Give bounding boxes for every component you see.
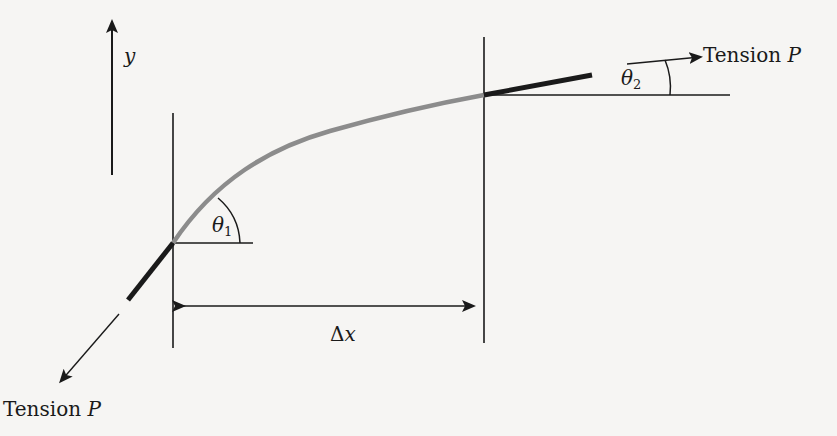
right-tangent-segment	[484, 75, 592, 95]
tension-bottom-arrow	[61, 314, 119, 381]
theta-symbol: θ	[621, 66, 633, 90]
theta1-label: θ1	[212, 213, 232, 239]
tension-symbol: P	[787, 43, 800, 67]
theta2-arc	[665, 60, 670, 95]
tension-bottom-label: Tension P	[3, 397, 101, 421]
left-tangent-segment	[128, 243, 173, 300]
theta-subscript: 2	[633, 77, 641, 92]
theta2-label: θ2	[621, 66, 641, 92]
theta-subscript: 1	[224, 224, 232, 239]
delta-x-label: Δx	[330, 322, 356, 346]
x-variable: x	[344, 322, 355, 346]
tension-top-arrow	[627, 57, 700, 64]
delta-symbol: Δ	[330, 322, 344, 346]
theta-symbol: θ	[212, 213, 224, 237]
tension-top-label: Tension P	[703, 43, 801, 67]
tension-word: Tension	[703, 43, 781, 67]
tension-symbol: P	[87, 397, 100, 421]
tension-word: Tension	[3, 397, 81, 421]
y-axis-label: y	[124, 44, 135, 68]
